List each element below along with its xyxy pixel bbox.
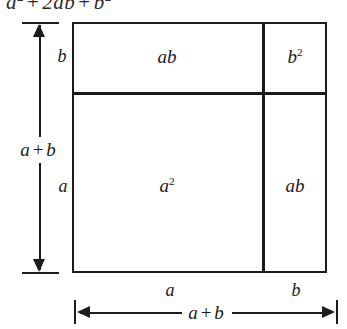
formula-plus-2: + bbox=[75, 0, 93, 13]
vertical-divider-line bbox=[262, 22, 265, 273]
horizontal-dimension-tick-left bbox=[74, 300, 76, 324]
formula-plus-1: + bbox=[24, 0, 42, 13]
horizontal-dimension-label-op: + bbox=[198, 302, 215, 323]
bottom-segment-label-b: b bbox=[292, 280, 301, 301]
left-segment-label-a: a bbox=[59, 176, 68, 197]
formula-term-b-squared: b2 bbox=[94, 0, 112, 13]
horizontal-divider-line bbox=[72, 92, 327, 95]
formula-expression: a2+2ab+b2 bbox=[6, 0, 112, 13]
horizontal-dimension-line-left bbox=[80, 312, 182, 314]
vertical-dimension-label: a+b bbox=[17, 137, 59, 163]
bottom-segment-label-a: a bbox=[166, 280, 175, 301]
cell-label-bottom-left-exp: 2 bbox=[169, 175, 175, 187]
formula-caption: a2+2ab+b2 bbox=[0, 0, 200, 13]
vertical-dimension-line-lower bbox=[39, 160, 41, 270]
cell-label-top-right-exp: 2 bbox=[297, 46, 303, 58]
vertical-dimension-label-b: b bbox=[46, 139, 56, 160]
cell-label-bottom-left-base: a bbox=[159, 175, 169, 196]
figure-canvas: a2+2ab+b2 ab b2 a2 ab b a a+b a b a+b bbox=[0, 0, 347, 329]
horizontal-dimension-label-a: a bbox=[188, 302, 198, 323]
horizontal-dimension-label: a+b bbox=[183, 301, 229, 325]
vertical-dimension-line-upper bbox=[39, 25, 41, 139]
cell-label-bottom-left: a2 bbox=[159, 175, 174, 197]
vertical-dimension-label-a: a bbox=[20, 139, 30, 160]
cell-label-bottom-right: ab bbox=[286, 175, 305, 197]
formula-term-2ab: 2ab bbox=[42, 0, 75, 13]
left-segment-label-b: b bbox=[58, 46, 67, 67]
horizontal-dimension-tick-right bbox=[336, 300, 338, 324]
vertical-dimension-label-op: + bbox=[30, 139, 47, 160]
cell-label-top-right-base: b bbox=[287, 46, 297, 67]
formula-term-a-squared: a2 bbox=[6, 0, 24, 13]
cell-label-top-left: ab bbox=[158, 46, 177, 68]
vertical-dimension-tick-bottom bbox=[22, 272, 59, 274]
cell-label-top-right: b2 bbox=[287, 46, 302, 68]
horizontal-dimension-label-b: b bbox=[214, 302, 224, 323]
horizontal-dimension-line-right bbox=[232, 312, 330, 314]
